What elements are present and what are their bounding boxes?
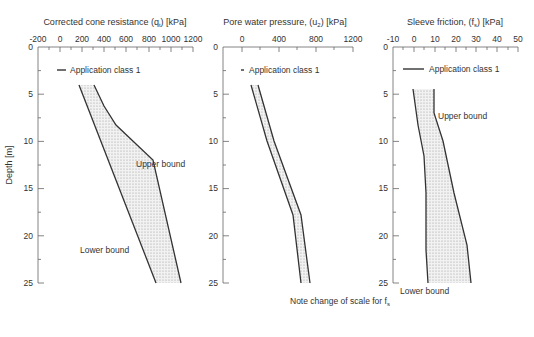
svg-text:0: 0 [213, 42, 218, 52]
svg-text:20: 20 [379, 231, 389, 241]
svg-text:20: 20 [209, 231, 219, 241]
panel3-title: Sleeve friction, (fs) [kPa] [407, 17, 503, 28]
svg-text:10: 10 [24, 136, 34, 146]
svg-text:20: 20 [451, 34, 461, 44]
panel1-x-tick-labels: -200 0 200 400 600 800 1000 1200 [29, 34, 202, 44]
panel3-y-tick-labels: 0 5 10 15 20 25 [379, 42, 389, 288]
svg-text:50: 50 [513, 34, 523, 44]
panel2-axes [223, 47, 353, 283]
svg-text:1000: 1000 [162, 34, 181, 44]
svg-text:Application class 1: Application class 1 [429, 64, 500, 74]
svg-text:1200: 1200 [344, 34, 363, 44]
panel2-lower-bound-line [251, 85, 301, 283]
panel1-legend: Application class 1 [57, 65, 141, 75]
svg-text:400: 400 [272, 34, 286, 44]
svg-text:25: 25 [24, 278, 34, 288]
svg-text:800: 800 [309, 34, 323, 44]
cpt-chart-figure: Corrected cone resistance (qt) [kPa] -20… [0, 0, 534, 337]
panel-sleeve-friction: Sleeve friction, (fs) [kPa] -10 0 10 20 … [379, 17, 523, 296]
svg-text:Application class 1: Application class 1 [249, 65, 320, 75]
svg-text:10: 10 [209, 136, 219, 146]
svg-text:10: 10 [430, 34, 440, 44]
panel2-title: Pore water pressure, (u2) [kPa] [223, 17, 346, 28]
panel2-legend: Application class 1 [241, 65, 320, 75]
panel1-y-tick-labels: 0 5 10 15 20 25 [24, 42, 34, 288]
svg-text:10: 10 [379, 136, 389, 146]
panel1-lower-bound-label: Lower bound [80, 245, 129, 255]
panel2-x-tick-labels: 0 400 800 1200 [240, 34, 363, 44]
panel-pore-pressure: Pore water pressure, (u2) [kPa] 0 400 80… [209, 17, 363, 288]
svg-text:800: 800 [142, 34, 156, 44]
svg-text:0: 0 [28, 42, 33, 52]
svg-text:0: 0 [240, 34, 245, 44]
panel3-legend: Application class 1 [403, 64, 500, 74]
panel3-x-tick-labels: -10 0 10 20 30 40 50 [387, 34, 523, 44]
scale-change-note: Note change of scale for fs [290, 296, 390, 307]
svg-text:400: 400 [97, 34, 111, 44]
panel3-upper-bound-label: Upper bound [438, 111, 487, 121]
svg-text:5: 5 [383, 89, 388, 99]
svg-text:Application class 1: Application class 1 [70, 65, 141, 75]
svg-text:-10: -10 [387, 34, 400, 44]
svg-text:15: 15 [209, 183, 219, 193]
svg-text:20: 20 [24, 231, 34, 241]
panel1-upper-bound-label: Upper bound [136, 159, 185, 169]
svg-text:40: 40 [492, 34, 502, 44]
panel-cone-resistance: Corrected cone resistance (qt) [kPa] -20… [4, 17, 203, 288]
panel2-y-tick-labels: 0 5 10 15 20 25 [209, 42, 219, 288]
svg-text:25: 25 [209, 278, 219, 288]
panel3-lower-bound-label: Lower bound [400, 286, 449, 296]
svg-text:0: 0 [412, 34, 417, 44]
svg-text:0: 0 [383, 42, 388, 52]
svg-text:25: 25 [379, 278, 389, 288]
y-axis-label: Depth [m] [4, 145, 14, 184]
svg-text:5: 5 [213, 89, 218, 99]
svg-text:30: 30 [471, 34, 481, 44]
svg-text:5: 5 [28, 89, 33, 99]
svg-text:600: 600 [119, 34, 133, 44]
svg-text:0: 0 [58, 34, 63, 44]
svg-text:15: 15 [24, 183, 34, 193]
svg-text:1200: 1200 [184, 34, 203, 44]
svg-text:15: 15 [379, 183, 389, 193]
panel1-title: Corrected cone resistance (qt) [kPa] [43, 17, 186, 28]
svg-text:200: 200 [75, 34, 89, 44]
